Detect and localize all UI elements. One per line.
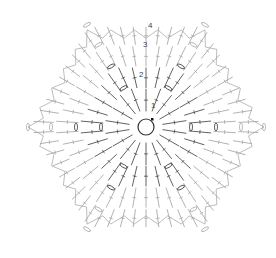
round-label-1: 1 bbox=[151, 101, 156, 110]
start-marker-icon bbox=[151, 118, 154, 121]
round-label-2: 2 bbox=[139, 70, 144, 79]
outer-rounds bbox=[27, 22, 266, 233]
round-label-4: 4 bbox=[148, 21, 153, 30]
inner-rounds bbox=[75, 63, 218, 191]
round-label-3: 3 bbox=[143, 40, 148, 49]
crochet-hexagon-chart: 1 2 3 4 bbox=[0, 0, 276, 258]
round-labels: 1 2 3 4 bbox=[139, 21, 156, 110]
center-ring bbox=[138, 118, 154, 135]
